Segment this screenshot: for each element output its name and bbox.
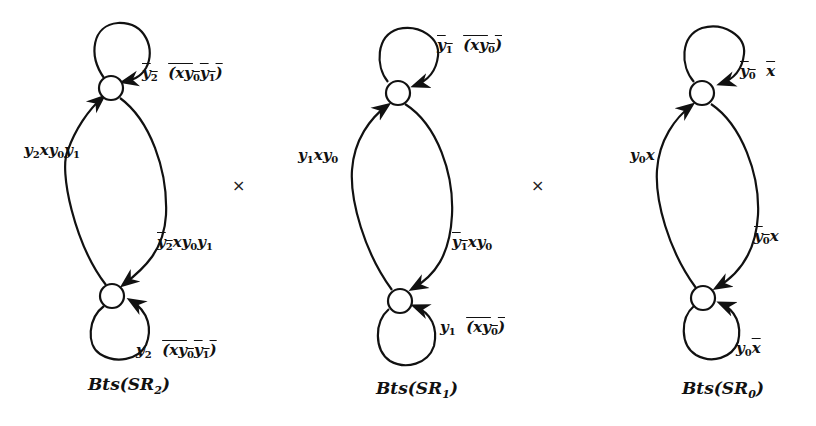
transition-label-bottom-to-top: y0x	[630, 148, 655, 165]
state-bottom	[691, 286, 715, 310]
transition-label-bottom-to-top: y1xy0	[298, 148, 338, 165]
transition-label-top-to-bottom: y2xy0y1	[157, 235, 213, 252]
self-loop-bottom	[684, 303, 739, 359]
state-top	[99, 76, 123, 100]
machine-caption: Bts(SR2)	[88, 374, 170, 397]
state-top	[690, 81, 714, 105]
self-loop-top	[684, 27, 744, 84]
state-bottom	[100, 284, 124, 308]
product-operator: ×	[232, 176, 245, 195]
edge-top-to-bottom	[711, 104, 758, 288]
self-loop-bottom	[378, 306, 435, 365]
transition-label-top-to-bottom: y0x	[754, 229, 779, 246]
transition-label-bottom-to-top: y2xy0y1	[24, 143, 80, 160]
state-top	[386, 81, 410, 105]
machine-caption: Bts(SR0)	[682, 378, 764, 401]
transition-label-bottom-loop: y2 (xy0y1)	[136, 343, 217, 360]
edge-bottom-to-top	[65, 97, 106, 285]
machine-caption: Bts(SR1)	[376, 378, 458, 401]
edge-bottom-to-top	[352, 105, 392, 290]
product-operator: ×	[531, 176, 544, 195]
diagram-canvas	[0, 0, 816, 426]
transition-label-bottom-loop: y0x	[736, 341, 761, 358]
edge-bottom-to-top	[657, 105, 696, 288]
transition-label-top-loop: y0 x	[740, 64, 775, 81]
transition-label-bottom-loop: y1 (xy0)	[440, 320, 505, 337]
edge-top-to-bottom	[120, 98, 166, 285]
transition-label-top-loop: y2 (xy0y1)	[142, 66, 223, 83]
transition-label-top-loop: y1 (xy0)	[437, 38, 502, 55]
edge-top-to-bottom	[405, 104, 452, 289]
self-loop-top	[380, 28, 439, 86]
transition-label-top-to-bottom: y1xy0	[452, 235, 492, 252]
machine-sr1	[352, 28, 452, 365]
state-bottom	[388, 289, 412, 313]
